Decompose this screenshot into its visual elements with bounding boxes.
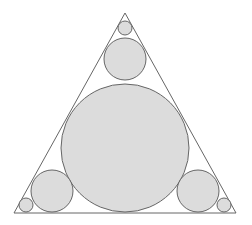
circle-left-small [19, 198, 33, 212]
diagram-canvas [0, 0, 252, 225]
circle-top-medium [104, 38, 146, 80]
circle-top-small [118, 21, 132, 35]
circle-left-medium [31, 170, 73, 212]
circle-right-medium [177, 170, 219, 212]
circle-incircle [61, 84, 189, 212]
circle-right-small [217, 198, 231, 212]
triangle-circles-figure [0, 0, 252, 225]
circles-group [19, 21, 231, 212]
